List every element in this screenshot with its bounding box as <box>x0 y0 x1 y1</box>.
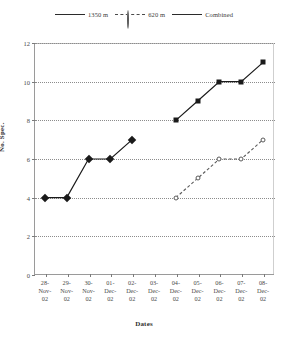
x-tick-mark <box>155 274 156 277</box>
x-axis-tick-labels: 28-Nov-0229-Nov-0230-Nov-0201-Dec-0202-D… <box>34 279 274 315</box>
legend-glyph-circle-dashed <box>115 10 145 19</box>
y-gridline <box>35 198 275 199</box>
x-tick-label-year: 02 <box>235 295 247 303</box>
legend-glyph-diamond-solid <box>55 10 85 19</box>
y-tick-label: 12 <box>24 40 31 47</box>
x-tick-label-month: Dec- <box>170 287 182 295</box>
x-tick-label: 02-Dec-02 <box>126 279 138 304</box>
x-tick-label-day: 01- <box>104 279 116 287</box>
x-tick-mark <box>46 274 47 277</box>
y-axis-title: No. Spec. <box>0 122 6 152</box>
x-tick-label-day: 28- <box>39 279 52 287</box>
y-tick-mark <box>32 82 35 83</box>
x-tick-label-year: 02 <box>148 295 160 303</box>
y-tick-label: 0 <box>27 272 30 279</box>
x-tick-label-month: Nov- <box>60 287 73 295</box>
x-tick-label-day: 05- <box>192 279 204 287</box>
x-tick-label-day: 06- <box>213 279 225 287</box>
x-tick-label-day: 07- <box>235 279 247 287</box>
y-tick-mark <box>32 198 35 199</box>
x-tick-label: 01-Dec-02 <box>104 279 116 304</box>
y-tick-label: 2 <box>27 233 30 240</box>
x-tick-label: 07-Dec-02 <box>235 279 247 304</box>
x-tick-label: 05-Dec-02 <box>192 279 204 304</box>
x-tick-mark <box>133 274 134 277</box>
y-tick-mark <box>32 43 35 44</box>
y-gridline <box>35 120 275 121</box>
x-tick-label: 03-Dec-02 <box>148 279 160 304</box>
x-tick-label-year: 02 <box>39 295 52 303</box>
legend-entry-1350m: 1350 m <box>55 10 108 19</box>
x-tick-label-year: 02 <box>257 295 269 303</box>
x-tick-label-year: 02 <box>213 295 225 303</box>
legend-glyph-square-solid <box>172 10 202 19</box>
x-tick-label-month: Nov- <box>39 287 52 295</box>
x-tick-label: 29-Nov-02 <box>60 279 73 304</box>
x-tick-mark <box>242 274 243 277</box>
x-tick-mark <box>220 274 221 277</box>
y-tick-label: 10 <box>24 78 31 85</box>
x-tick-label-day: 02- <box>126 279 138 287</box>
x-tick-label: 30-Nov-02 <box>82 279 95 304</box>
chart-legend: 1350 m 620 m Combined <box>0 10 288 19</box>
x-tick-mark <box>111 274 112 277</box>
legend-entry-620m: 620 m <box>115 10 165 19</box>
x-tick-label: 06-Dec-02 <box>213 279 225 304</box>
y-tick-mark <box>32 236 35 237</box>
y-gridline <box>35 82 275 83</box>
x-tick-label-day: 08- <box>257 279 269 287</box>
x-tick-label: 28-Nov-02 <box>39 279 52 304</box>
x-tick-label-month: Dec- <box>213 287 225 295</box>
x-tick-mark <box>264 274 265 277</box>
x-tick-label-day: 29- <box>60 279 73 287</box>
line-chart: 1350 m 620 m Combined 024681012 No. Spec… <box>0 0 288 340</box>
x-tick-label-month: Dec- <box>126 287 138 295</box>
x-axis-title: Dates <box>0 320 288 328</box>
x-tick-label-month: Dec- <box>148 287 160 295</box>
x-tick-mark <box>177 274 178 277</box>
y-tick-mark <box>32 275 35 276</box>
legend-label-620m: 620 m <box>148 11 165 18</box>
x-tick-label-day: 03- <box>148 279 160 287</box>
y-tick-mark <box>32 120 35 121</box>
x-tick-label-year: 02 <box>170 295 182 303</box>
y-gridline <box>35 159 275 160</box>
x-tick-mark <box>90 274 91 277</box>
x-tick-label: 04-Dec-02 <box>170 279 182 304</box>
y-tick-mark <box>32 159 35 160</box>
y-gridline <box>35 43 275 44</box>
x-tick-label-day: 30- <box>82 279 95 287</box>
y-tick-label: 6 <box>27 156 30 163</box>
legend-label-combined: Combined <box>205 11 233 18</box>
x-tick-label-day: 04- <box>170 279 182 287</box>
x-tick-mark <box>68 274 69 277</box>
x-tick-mark <box>199 274 200 277</box>
x-tick-label-year: 02 <box>60 295 73 303</box>
x-tick-label-year: 02 <box>104 295 116 303</box>
x-tick-label-month: Dec- <box>104 287 116 295</box>
x-tick-label-month: Dec- <box>192 287 204 295</box>
x-tick-label-year: 02 <box>82 295 95 303</box>
y-tick-label: 8 <box>27 117 30 124</box>
x-tick-label-year: 02 <box>192 295 204 303</box>
legend-entry-combined: Combined <box>172 10 233 19</box>
x-tick-label: 08-Dec-02 <box>257 279 269 304</box>
x-tick-label-month: Dec- <box>257 287 269 295</box>
plot-area: 024681012 <box>34 43 274 275</box>
y-gridline <box>35 236 275 237</box>
legend-label-1350m: 1350 m <box>88 11 108 18</box>
y-tick-label: 4 <box>27 194 30 201</box>
x-tick-label-year: 02 <box>126 295 138 303</box>
x-tick-label-month: Dec- <box>235 287 247 295</box>
x-tick-label-month: Nov- <box>82 287 95 295</box>
